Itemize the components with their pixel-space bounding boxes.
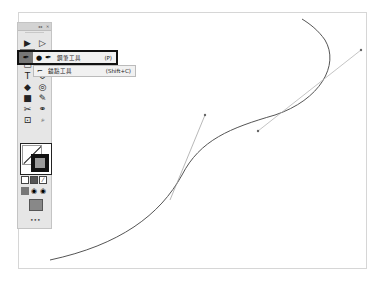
panel-grip[interactable]	[25, 32, 44, 37]
screen-mode-icon[interactable]	[29, 199, 43, 211]
draw-normal-icon[interactable]	[21, 187, 29, 195]
anchor-point-icon: ⌐	[37, 67, 43, 75]
gradient-tool-icon[interactable]: ■	[20, 93, 35, 104]
color-mode-icon[interactable]	[21, 176, 29, 184]
draw-mode-buttons: ◉ ◉	[21, 187, 47, 195]
direction-handle-left	[170, 115, 205, 200]
blend-tool-icon[interactable]: ⚭	[35, 104, 50, 115]
more-tools-icon[interactable]: •••	[30, 216, 41, 223]
flyout-item-shortcut: (P)	[104, 55, 112, 61]
pen-tool-flyout-menu: ✒ ● ✒ 鋼筆工具 (P) ⌐ 錨點工具 (Shift+C)	[17, 50, 120, 78]
bezier-path-artwork[interactable]	[0, 0, 380, 281]
direct-selection-tool-icon[interactable]: ▷	[35, 38, 50, 49]
shape-builder-tool-icon[interactable]: ◎	[35, 82, 50, 93]
flyout-item-label: 錨點工具	[48, 67, 72, 75]
flyout-item-label: 鋼筆工具	[57, 54, 81, 62]
eyedropper-tool-icon[interactable]: ✎	[35, 93, 50, 104]
symbol-sprayer-tool-icon[interactable]: ✂	[20, 104, 35, 115]
draw-inside-icon[interactable]: ◉	[39, 187, 47, 195]
flyout-item-shortcut: (Shift+C)	[106, 68, 131, 74]
color-mode-buttons: ⁄	[21, 176, 47, 184]
pen-tool-icon: ✒	[19, 52, 33, 63]
gradient-mode-icon[interactable]	[30, 176, 38, 184]
panel-header[interactable]: ◂◂ ✕	[18, 23, 51, 31]
close-icon[interactable]: ✕	[46, 24, 49, 29]
selected-bullet-icon: ●	[36, 54, 42, 62]
draw-behind-icon[interactable]: ◉	[30, 187, 38, 195]
paint-bucket-tool-icon[interactable]: ◆	[20, 82, 35, 93]
none-mode-icon[interactable]: ⁄	[39, 176, 47, 184]
direction-handle-right	[258, 50, 361, 131]
zoom-tool-icon[interactable]: ⌕	[35, 115, 50, 126]
stroke-swatch[interactable]	[31, 154, 49, 172]
pen-icon: ✒	[45, 53, 52, 62]
artboard-tool-icon[interactable]: ⊡	[20, 115, 35, 126]
selection-tool-icon[interactable]: ▶	[20, 38, 35, 49]
collapse-icon[interactable]: ◂◂	[38, 24, 42, 29]
fill-stroke-swatches[interactable]	[20, 143, 52, 175]
flyout-item-pen-tool[interactable]: ✒ ● ✒ 鋼筆工具 (P)	[17, 50, 118, 65]
flyout-item-anchor-point-tool[interactable]: ⌐ 錨點工具 (Shift+C)	[33, 65, 136, 77]
